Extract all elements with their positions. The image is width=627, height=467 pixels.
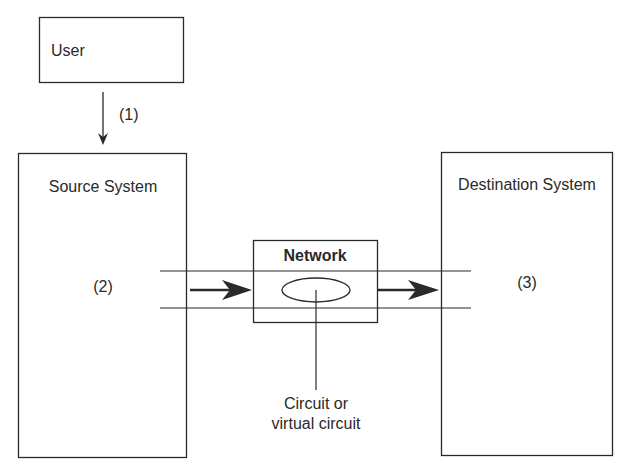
step-3-label: (3)	[517, 274, 537, 292]
network-label: Network	[283, 247, 346, 265]
circuit-annotation-line1: Circuit or	[284, 395, 348, 413]
destination-system-label: Destination System	[458, 176, 596, 194]
circuit-annotation-line2: virtual circuit	[272, 415, 361, 433]
source-system-label: Source System	[49, 178, 157, 196]
source-system-box	[19, 154, 187, 458]
step-2-label: (2)	[93, 278, 113, 296]
destination-system-box	[442, 153, 613, 456]
step-1-label: (1)	[119, 106, 139, 124]
user-label: User	[51, 42, 85, 60]
